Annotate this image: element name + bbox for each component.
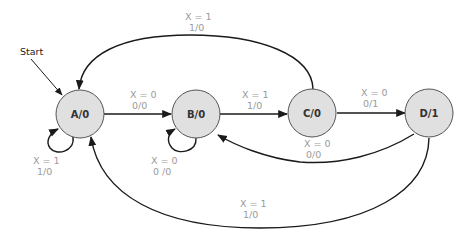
svg-text:0/0: 0/0 xyxy=(132,100,147,111)
svg-text:X = 0: X = 0 xyxy=(304,138,331,149)
edge-a-self-loop: X = 1 1/0 xyxy=(33,129,73,177)
svg-text:X = 0: X = 0 xyxy=(151,155,178,166)
svg-text:1/0: 1/0 xyxy=(247,100,262,111)
state-a[interactable]: A/0 xyxy=(56,90,104,138)
start-arrow xyxy=(31,59,62,95)
edge-c-to-a: X = 1 1/0 xyxy=(79,11,313,89)
svg-text:X = 0: X = 0 xyxy=(130,89,157,100)
svg-text:1/0: 1/0 xyxy=(37,166,52,177)
svg-text:1/0: 1/0 xyxy=(189,22,204,33)
edge-a-to-b: X = 0 0/0 xyxy=(104,89,171,114)
svg-text:X = 0: X = 0 xyxy=(361,87,388,98)
svg-text:X = 1: X = 1 xyxy=(33,155,60,166)
svg-text:1/0: 1/0 xyxy=(243,209,258,220)
state-b[interactable]: B/0 xyxy=(172,90,220,138)
svg-text:X = 1: X = 1 xyxy=(240,198,267,209)
state-diagram: Start X = 0 0/0 X = 1 1/0 X = 1 1/0 X = … xyxy=(0,0,472,242)
state-d-label: D/1 xyxy=(420,108,439,119)
edge-c-to-d: X = 0 0/1 xyxy=(337,87,405,113)
edge-d-to-b: X = 0 0/0 xyxy=(218,134,414,163)
svg-text:0/0: 0/0 xyxy=(306,149,321,160)
state-a-label: A/0 xyxy=(71,109,89,120)
state-b-label: B/0 xyxy=(187,109,205,120)
state-c[interactable]: C/0 xyxy=(288,89,336,137)
svg-text:0 /0: 0 /0 xyxy=(153,166,171,177)
state-d[interactable]: D/1 xyxy=(405,89,453,137)
start-indicator: Start xyxy=(20,46,62,95)
edge-b-to-c: X = 1 1/0 xyxy=(220,89,287,114)
svg-text:X = 1: X = 1 xyxy=(185,11,212,22)
state-c-label: C/0 xyxy=(303,108,321,119)
start-label: Start xyxy=(20,46,43,57)
svg-text:X = 1: X = 1 xyxy=(242,89,269,100)
svg-text:0/1: 0/1 xyxy=(363,98,378,109)
